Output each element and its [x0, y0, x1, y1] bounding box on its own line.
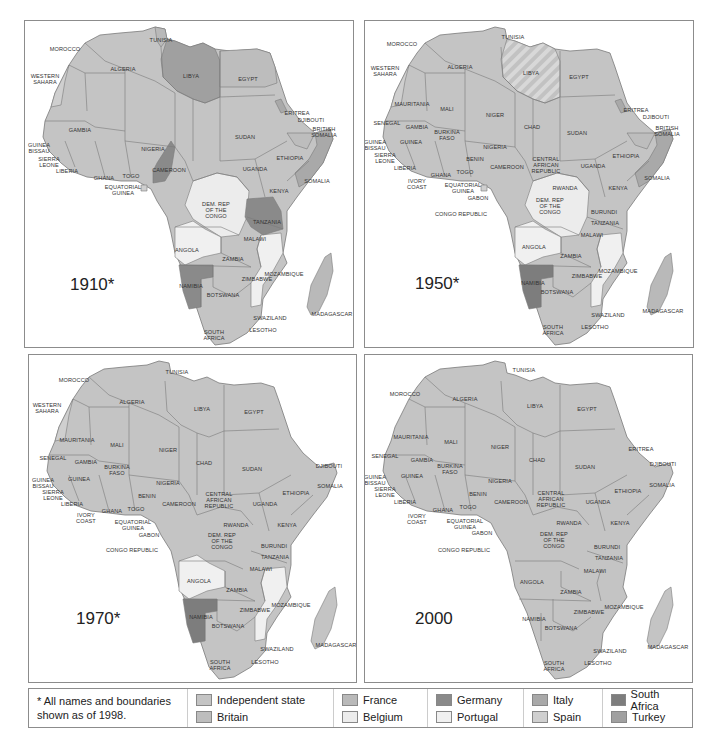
country-label: DJIBOUTI [643, 114, 669, 120]
country-label: EGYPT [244, 409, 263, 415]
country-label: MOROCCO [59, 377, 90, 383]
country-label: LIBERIA [61, 501, 83, 507]
legend-item-belgium: Belgium [342, 710, 419, 724]
country-label: BURUNDI [261, 543, 287, 549]
country-label: RWANDA [552, 185, 577, 191]
country-label: CONGO REPUBLIC [435, 211, 487, 217]
country-label: EGYPT [569, 74, 588, 80]
colonial-territory [481, 185, 487, 191]
country-label: UGANDA [253, 501, 278, 507]
country-label: ALGERIA [120, 399, 145, 405]
country-label: SUDAN [242, 466, 262, 472]
country-label: LIBERIA [394, 499, 416, 505]
legend-item-germany: Germany [436, 693, 515, 707]
country-label: MALI [440, 106, 453, 112]
country-label: DJIBOUTI [298, 117, 324, 123]
country-label: GUINEA BISSAU [364, 474, 386, 486]
country-label: MALI [444, 439, 457, 445]
swatch-france [342, 694, 358, 706]
country-label: MALAWI [584, 568, 606, 574]
country-label: TOGO [123, 173, 140, 179]
country-label: ALGERIA [111, 66, 136, 72]
country-label: ERITREA [629, 446, 654, 452]
country-label: IVORY COAST [407, 178, 427, 190]
country-label: DEM. REP OF THE CONGO [202, 201, 230, 219]
country-label: GUINEA BISSAU [32, 477, 54, 489]
country-label: DEM. REP OF THE CONGO [208, 532, 236, 550]
country-label: MALAWI [581, 232, 603, 238]
country-label: BENIN [469, 491, 487, 497]
country-label: SOMALIA [304, 178, 330, 184]
country-label: TOGO [457, 169, 474, 175]
country-label: CAMEROON [490, 164, 524, 170]
swatch-germany [436, 694, 452, 706]
country-label: MALI [110, 442, 123, 448]
country-label: NIGER [491, 444, 509, 450]
country-label: GUINEA [401, 473, 423, 479]
country-label: NIGER [486, 112, 504, 118]
country-label: LESOTHO [581, 324, 608, 330]
country-label: ANGOLA [175, 247, 199, 253]
country-label: BURKINA FASO [434, 129, 460, 141]
country-label: BOTSWANA [207, 292, 240, 298]
country-label: NAMIBIA [521, 280, 545, 286]
country-label: LIBYA [183, 73, 199, 79]
country-label: GAMBIA [411, 457, 433, 463]
country-label: SUDAN [567, 130, 587, 136]
legend-item-portugal: Portugal [436, 710, 515, 724]
country-label: SOUTH AFRICA [543, 660, 564, 672]
country-label: SOMALIA [649, 482, 675, 488]
country-label: MADAGASCAR [316, 642, 357, 648]
country-label: SOUTH AFRICA [203, 329, 224, 341]
country-label: ALGERIA [448, 64, 473, 70]
country-label: LIBERIA [394, 165, 416, 171]
country-label: RWANDA [223, 522, 248, 528]
country-label: BOTSWANA [545, 625, 578, 631]
country-label: BOTSWANA [541, 289, 574, 295]
country-label: ERITREA [624, 107, 649, 113]
map-panel-1950: MOROCCOTUNISIAWESTERN SAHARAALGERIALIBYA… [364, 20, 694, 348]
madagascar-island [647, 587, 673, 649]
country-label: ZAMBIA [560, 253, 581, 259]
legend-item-spain: Spain [532, 710, 594, 724]
swatch-spain [532, 711, 548, 723]
country-label: BURKINA FASO [104, 464, 130, 476]
country-label: NIGERIA [483, 144, 507, 150]
legend-item-independent-state: Independent state [196, 693, 325, 707]
country-label: KENYA [269, 188, 288, 194]
country-label: EQUATORIAL GUINEA [447, 518, 484, 530]
country-label: SIERRA LEONE [42, 489, 63, 501]
country-label: UGANDA [243, 166, 268, 172]
country-label: BURUNDI [594, 544, 620, 550]
country-label: ETHIOPIA [613, 153, 640, 159]
country-label: CAMEROON [162, 501, 196, 507]
country-label: SIERRA LEONE [374, 486, 395, 498]
country-label: UGANDA [586, 499, 611, 505]
country-label: SWAZILAND [253, 315, 286, 321]
map-panel-1970: MOROCCOTUNISIAWESTERN SAHARAALGERIALIBYA… [28, 354, 357, 683]
country-label: LIBYA [527, 403, 543, 409]
country-label: BRITISH SOMALIA [654, 125, 680, 137]
country-label: CENTRAL AFRICAN REPUBLIC [537, 490, 566, 508]
swatch-belgium [342, 711, 358, 723]
country-label: GAMBIA [75, 459, 97, 465]
madagascar-island [307, 253, 333, 315]
country-label: TANZANIA [261, 554, 289, 560]
country-label: MOROCCO [390, 391, 421, 397]
map-legend: * All names and boundaries shown as of 1… [28, 688, 693, 728]
country-label: WESTERN SAHARA [371, 65, 400, 77]
country-label: SWAZILAND [591, 312, 624, 318]
country-label: ETHIOPIA [277, 155, 304, 161]
country-label: LESOTHO [249, 327, 276, 333]
country-label: LIBYA [194, 406, 210, 412]
legend-item-south-africa: South Africa [611, 693, 684, 707]
map-panel-1910: MOROCCOTUNISIAWESTERN SAHARAALGERIALIBYA… [24, 20, 354, 348]
country-label: ANGOLA [520, 579, 544, 585]
country-label: GABON [468, 195, 489, 201]
country-label: EQUATORIAL GUINEA [105, 184, 142, 196]
country-label: CAMEROON [152, 167, 186, 173]
country-label: NAMIBIA [179, 283, 203, 289]
country-label: MAURITANIA [394, 101, 429, 107]
country-label: BENIN [138, 493, 156, 499]
country-label: ALGERIA [453, 396, 478, 402]
